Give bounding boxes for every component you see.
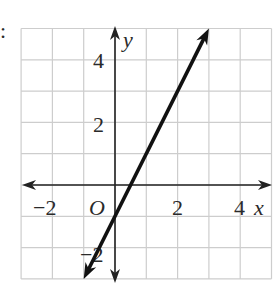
x-tick-label-4: 4 [234,195,245,220]
y-axis-label: y [121,27,133,52]
origin-label: O [89,195,105,220]
x-axis [22,180,272,190]
coordinate-plane: : −2 O 2 4 x y 4 2 −2 [0,0,278,308]
y-tick-label-2: 2 [93,112,104,137]
y-tick-label-4: 4 [93,48,104,73]
leading-mark: : [0,18,6,43]
x-tick-label-neg2: −2 [33,195,56,220]
x-tick-label-2: 2 [172,195,183,220]
y-axis [110,26,120,283]
x-axis-label: x [253,195,264,220]
